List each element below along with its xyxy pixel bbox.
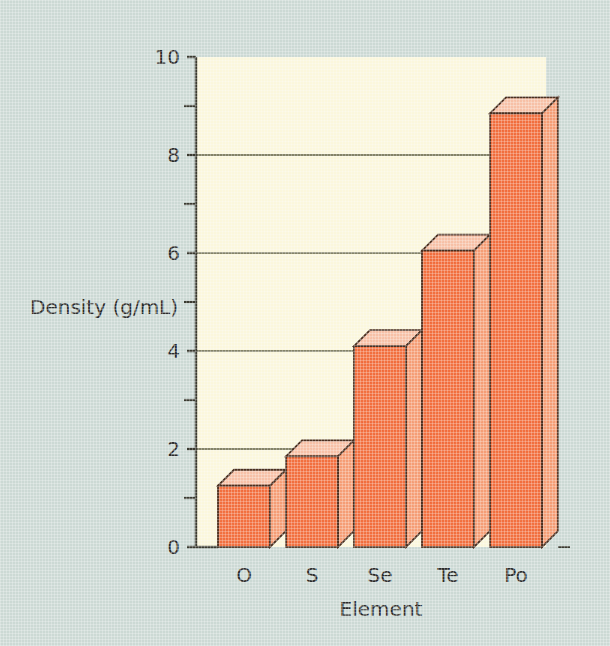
x-tick-label-Se: Se — [368, 563, 393, 587]
bar-Se-side — [406, 330, 422, 547]
bar-S-front — [286, 456, 338, 547]
bar-Se-front — [354, 346, 406, 547]
y-tick-label-4: 4 — [167, 339, 180, 363]
bar-Po-front — [490, 113, 542, 547]
density-bar-chart: 10 8 6 4 2 0 Density (g/mL) — [0, 0, 610, 646]
bar-S[interactable] — [286, 440, 354, 547]
y-tick-label-2: 2 — [167, 437, 180, 461]
chart-figure: 10 8 6 4 2 0 Density (g/mL) — [0, 0, 610, 646]
bar-S-side — [338, 440, 354, 547]
x-tick-label-Po: Po — [504, 563, 528, 587]
bar-Se[interactable] — [354, 330, 422, 547]
bar-O[interactable] — [218, 470, 286, 547]
bar-Po[interactable] — [490, 97, 558, 547]
bar-Te[interactable] — [422, 235, 490, 547]
bar-Po-side — [542, 97, 558, 547]
bar-O-front — [218, 486, 270, 547]
y-tick-label-6: 6 — [167, 241, 180, 265]
y-tick-label-10: 10 — [155, 45, 180, 69]
x-tick-label-S: S — [306, 563, 319, 587]
y-axis — [184, 57, 196, 547]
y-axis-title: Density (g/mL) — [30, 295, 178, 319]
y-tick-label-0: 0 — [167, 535, 180, 559]
x-axis-title: Element — [340, 597, 423, 621]
x-tick-label-O: O — [236, 563, 252, 587]
x-tick-labels: O S Se Te Po — [236, 563, 528, 587]
x-tick-label-Te: Te — [436, 563, 458, 587]
bar-Te-front — [422, 251, 474, 547]
bar-Te-side — [474, 235, 490, 547]
y-tick-label-8: 8 — [167, 143, 180, 167]
